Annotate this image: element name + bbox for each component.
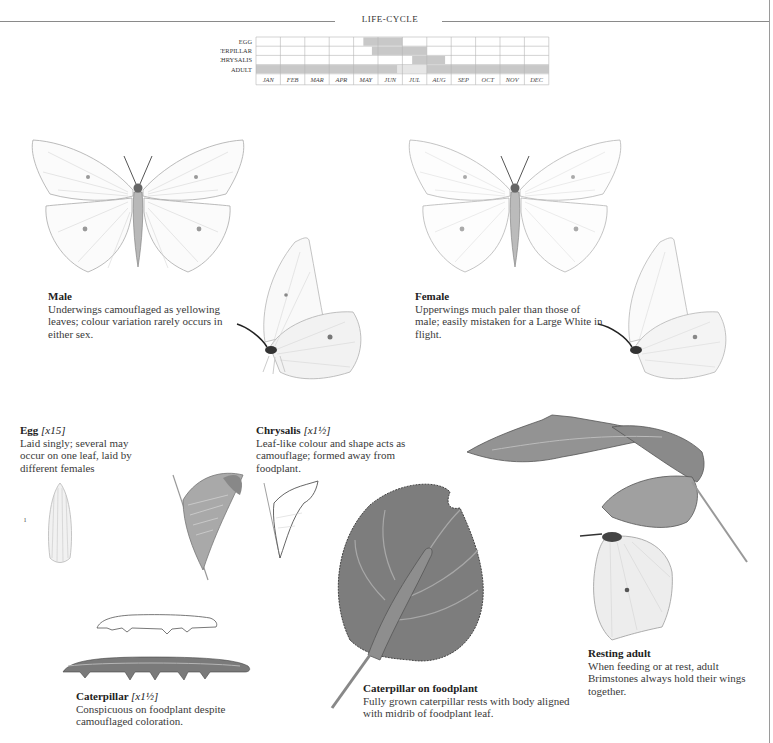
- chrysalis-caption: Chrysalis [x1½] Leaf-like colour and sha…: [256, 424, 406, 474]
- month-label: FEB: [286, 76, 299, 83]
- month-label: NOV: [505, 76, 520, 83]
- month-label: OCT: [482, 76, 495, 83]
- caterpillar-caption-text: Conspicuous on foodplant despite camoufl…: [76, 703, 225, 728]
- female-butterfly-underside-illustration: [590, 232, 740, 382]
- month-label: MAY: [359, 76, 374, 83]
- life-cycle-chart: EGGCATERPILLARCHRYSALISADULTJANFEBMARAPR…: [220, 36, 560, 92]
- caterpillar-foodplant-caption: Caterpillar on foodplant Fully grown cat…: [363, 682, 573, 720]
- stage-bar-adult: [427, 65, 549, 73]
- egg-illustration: [42, 480, 78, 565]
- stage-label: CATERPILLAR: [220, 47, 253, 54]
- stage-label: EGG: [239, 38, 253, 45]
- header-rule-right: [442, 21, 769, 22]
- resting-adult-caption-title: Resting adult: [588, 647, 768, 660]
- month-label: AUG: [431, 76, 446, 83]
- female-caption-text: Upperwings much paler than those of male…: [415, 303, 602, 340]
- caterpillar-foodplant-caption-title: Caterpillar on foodplant: [363, 682, 573, 695]
- life-cycle-title: LIFE-CYCLE: [350, 14, 430, 24]
- caterpillar-foodplant-caption-text: Fully grown caterpillar rests with body …: [363, 695, 570, 720]
- life-cycle-header: LIFE-CYCLE: [0, 14, 769, 28]
- egg-caption-title: Egg: [20, 424, 38, 436]
- chrysalis-outline-illustration: [262, 478, 322, 563]
- egg-caption-scale: [x15]: [41, 424, 65, 436]
- resting-adult-caption: Resting adult When feeding or at rest, a…: [588, 647, 768, 697]
- page-edge-rule: [769, 0, 770, 743]
- stage-bar-chrysalis: [412, 56, 445, 64]
- chrysalis-illustration: [168, 470, 258, 585]
- female-caption: Female Upperwings much paler than those …: [415, 290, 605, 340]
- month-label: MAR: [309, 76, 323, 83]
- egg-actual-size-mark: ı: [24, 515, 26, 524]
- resting-adult-caption-text: When feeding or at rest, adult Brimstone…: [588, 660, 746, 697]
- stage-label: ADULT: [231, 66, 252, 73]
- month-label: JAN: [263, 76, 275, 83]
- stage-bar-adult: [398, 65, 427, 73]
- chrysalis-caption-scale: [x1½]: [303, 424, 330, 436]
- caterpillar-caption: Caterpillar [x1½] Conspicuous on foodpla…: [76, 690, 276, 728]
- month-label: SEP: [458, 76, 469, 83]
- egg-caption: Egg [x15] Laid singly; several may occur…: [20, 424, 150, 474]
- resting-adult-illustration: [462, 412, 752, 642]
- month-label: JUL: [409, 76, 420, 83]
- caterpillar-caption-title: Caterpillar: [76, 690, 128, 702]
- month-label: DEC: [529, 76, 544, 83]
- egg-caption-text: Laid singly; several may occur on one le…: [20, 437, 132, 474]
- male-caption: Male Underwings camouflaged as yellowing…: [48, 290, 238, 340]
- header-rule-left: [0, 21, 335, 22]
- caterpillar-caption-scale: [x1½]: [131, 690, 158, 702]
- caterpillar-outline-illustration: [92, 610, 222, 635]
- stage-label: CHRYSALIS: [220, 56, 252, 63]
- stage-bar-adult: [256, 65, 398, 73]
- month-label: APR: [335, 76, 348, 83]
- male-caption-title: Male: [48, 290, 238, 303]
- caterpillar-illustration: [60, 654, 252, 684]
- female-caption-title: Female: [415, 290, 605, 303]
- male-caption-text: Underwings camouflaged as yellowing leav…: [48, 303, 222, 340]
- male-butterfly-underside-illustration: [225, 232, 375, 382]
- male-butterfly-upperside-illustration: [28, 132, 248, 282]
- month-label: JUN: [384, 76, 396, 83]
- chrysalis-caption-title: Chrysalis: [256, 424, 301, 436]
- chrysalis-caption-text: Leaf-like colour and shape acts as camou…: [256, 437, 405, 474]
- stage-bar-caterpillar: [372, 47, 427, 55]
- stage-bar-egg: [363, 38, 402, 46]
